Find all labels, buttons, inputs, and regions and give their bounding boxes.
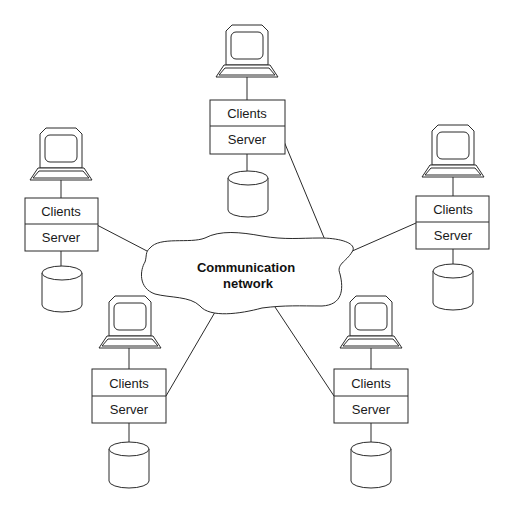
node-top: Clients Server <box>210 25 285 217</box>
network-label-line2: network <box>223 276 274 291</box>
node-bottom-left: Clients Server <box>92 296 166 488</box>
computer-terminal-icon <box>422 125 484 177</box>
node-bottom-right: Clients Server <box>334 296 408 488</box>
server-label: Server <box>42 230 81 245</box>
link-bottom-right <box>275 307 334 396</box>
database-cylinder-icon <box>42 266 82 312</box>
communication-network-cloud: Communication network <box>141 233 353 314</box>
clients-label: Clients <box>351 376 391 391</box>
server-label: Server <box>352 402 391 417</box>
server-label: Server <box>434 228 473 243</box>
link-left <box>97 225 147 251</box>
network-label-line1: Communication <box>197 260 295 275</box>
computer-terminal-icon <box>216 25 278 77</box>
node-left: Clients Server <box>25 128 98 312</box>
computer-terminal-icon <box>99 296 161 348</box>
node-right: Clients Server <box>416 125 489 310</box>
clients-label: Clients <box>227 106 267 121</box>
computer-terminal-icon <box>30 128 92 180</box>
clients-label: Clients <box>41 204 81 219</box>
server-label: Server <box>110 402 149 417</box>
clients-label: Clients <box>433 202 473 217</box>
database-cylinder-icon <box>433 264 473 310</box>
link-bottom-left <box>166 307 218 396</box>
link-right <box>350 223 416 252</box>
computer-terminal-icon <box>340 296 402 348</box>
database-cylinder-icon <box>228 171 268 217</box>
database-cylinder-icon <box>351 442 391 488</box>
network-diagram: Communication network Clients Server Cli… <box>0 0 513 512</box>
clients-label: Clients <box>109 376 149 391</box>
database-cylinder-icon <box>109 442 149 488</box>
server-label: Server <box>228 132 267 147</box>
